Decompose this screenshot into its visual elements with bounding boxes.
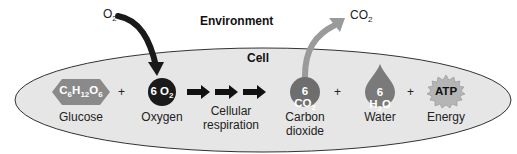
glucose-formula: C6H12O6 [52, 84, 110, 99]
oxygen-formula: 6 O2 [148, 85, 176, 100]
cell-label: Cell [247, 51, 269, 65]
glucose-label: Glucose [51, 110, 111, 124]
energy-label: Energy [416, 110, 476, 124]
process-label: Cellularrespiration [196, 104, 266, 132]
atp-formula: ATP [431, 85, 461, 97]
plus-sign: + [407, 85, 414, 99]
oxygen-label: Oxygen [132, 110, 192, 124]
o2-input-label: O2 [103, 7, 117, 26]
carbon-dioxide-label: Carbondioxide [275, 110, 335, 138]
water-label: Water [350, 110, 410, 124]
plus-sign: + [334, 85, 341, 99]
environment-label: Environment [200, 14, 273, 28]
co2-output-label: CO2 [350, 8, 372, 27]
co2-formula: 6 CO2 [290, 85, 320, 112]
plus-sign: + [118, 85, 125, 99]
